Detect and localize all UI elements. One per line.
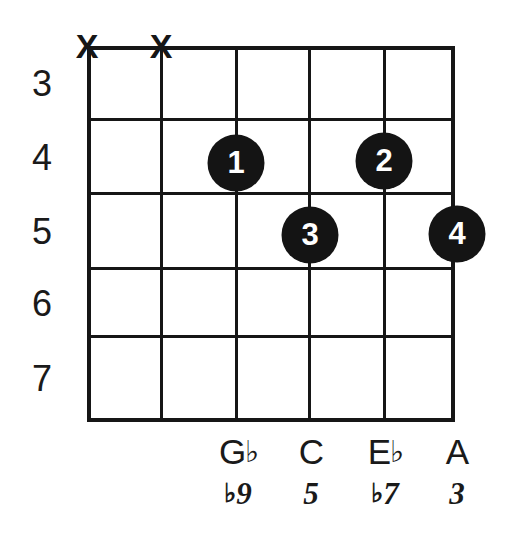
- note-letter-string-4: C: [299, 432, 324, 471]
- fret-line-top: [87, 46, 455, 50]
- note-letter-string-3: G: [219, 432, 246, 471]
- finger-dot-3: 3: [282, 207, 339, 264]
- fret-line-6-7: [87, 335, 455, 338]
- finger-dot-2-label: 2: [375, 145, 392, 176]
- fret-line-3-4: [87, 118, 455, 121]
- interval-flat-string-5: ♭: [371, 479, 383, 508]
- flat-sign-string-3: ♭: [245, 435, 259, 468]
- finger-dot-2: 2: [356, 133, 413, 190]
- string-line-2: [160, 46, 163, 422]
- interval-degree-string-3: 9: [236, 476, 252, 511]
- fret-line-5-6: [87, 267, 455, 270]
- note-label-string-6: A: [417, 432, 497, 472]
- finger-dot-1: 1: [208, 135, 265, 192]
- finger-dot-4-label: 4: [448, 218, 465, 249]
- flat-sign-string-5: ♭: [390, 435, 404, 468]
- interval-label-string-5: ♭7: [345, 476, 425, 512]
- finger-dot-1-label: 1: [227, 147, 244, 178]
- mute-marker-string-1: X: [72, 31, 102, 61]
- fret-number-7: 7: [19, 358, 65, 400]
- interval-flat-string-3: ♭: [224, 479, 236, 508]
- string-line-1: [87, 46, 91, 422]
- string-line-5: [383, 46, 386, 422]
- fret-number-3: 3: [19, 63, 65, 105]
- mute-marker-string-2: X: [146, 31, 176, 61]
- interval-label-string-3: ♭9: [198, 476, 278, 512]
- fret-line-bottom: [87, 418, 455, 422]
- interval-degree-string-5: 7: [383, 476, 399, 511]
- fret-line-4-5: [87, 192, 455, 195]
- note-label-string-5: E♭: [346, 432, 426, 472]
- finger-dot-4: 4: [429, 206, 486, 263]
- fret-number-6: 6: [19, 283, 65, 325]
- note-label-string-3: G♭: [199, 432, 279, 472]
- string-line-3: [235, 46, 238, 422]
- interval-label-string-4: 5: [271, 476, 351, 512]
- interval-degree-string-4: 5: [303, 476, 319, 511]
- fret-number-5: 5: [19, 211, 65, 253]
- interval-label-string-6: 3: [417, 476, 497, 512]
- note-label-string-4: C: [271, 432, 351, 472]
- fret-number-4: 4: [19, 137, 65, 179]
- interval-degree-string-6: 3: [449, 476, 465, 511]
- note-letter-string-6: A: [446, 432, 469, 471]
- note-letter-string-5: E: [368, 432, 391, 471]
- fretboard-grid: [87, 46, 455, 422]
- chord-diagram: 3 4 5 6 7 X X 1 2 3 4 G♭ C E: [0, 0, 521, 548]
- finger-dot-3-label: 3: [301, 219, 318, 250]
